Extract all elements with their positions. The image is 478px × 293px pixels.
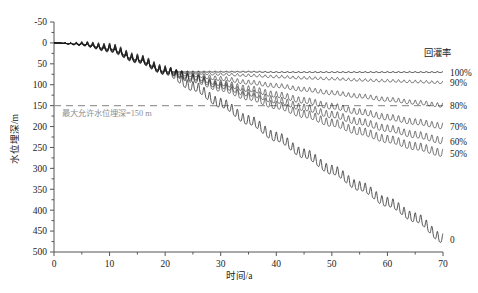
y-axis-tick-label: 250 bbox=[33, 143, 48, 153]
y-axis-tick-label: 150 bbox=[33, 101, 48, 111]
y-axis-tick-label: 300 bbox=[33, 164, 48, 174]
legend-label-0: 0 bbox=[450, 235, 455, 245]
chart-container: -500501001502002503003504004505000102030… bbox=[0, 0, 478, 293]
water-table-depth-line-chart: -500501001502002503003504004505000102030… bbox=[0, 0, 478, 293]
y-axis-tick-label: 450 bbox=[33, 226, 48, 236]
legend-label-100pct: 100% bbox=[450, 68, 472, 78]
x-axis-tick-label: 50 bbox=[327, 259, 337, 269]
series-curve-100pct bbox=[54, 43, 443, 73]
y-axis-tick-label: -50 bbox=[34, 17, 47, 27]
x-axis-tick-label: 60 bbox=[383, 259, 393, 269]
x-axis-tick-label: 30 bbox=[216, 259, 226, 269]
x-axis-tick-label: 20 bbox=[160, 259, 170, 269]
x-axis-tick-label: 70 bbox=[438, 259, 448, 269]
legend-label-80pct: 80% bbox=[450, 101, 467, 111]
y-axis-tick-label: 500 bbox=[33, 247, 48, 257]
axes-layer: -500501001502002503003504004505000102030… bbox=[33, 17, 448, 269]
legend-label-90pct: 90% bbox=[450, 78, 467, 88]
y-axis-tick-label: 0 bbox=[42, 38, 47, 48]
labels-layer: 100%90%80%70%60%50%0 bbox=[450, 68, 472, 245]
y-axis-tick-label: 100 bbox=[33, 80, 48, 90]
y-axis-tick-label: 400 bbox=[33, 206, 48, 216]
y-axis-tick-label: 50 bbox=[38, 59, 48, 69]
series-curves-layer bbox=[54, 41, 443, 242]
y-axis-tick-label: 200 bbox=[33, 122, 48, 132]
series-curve-50pct bbox=[54, 42, 443, 156]
legend-label-60pct: 60% bbox=[450, 137, 467, 147]
x-axis-tick-label: 10 bbox=[105, 259, 115, 269]
legend-label-50pct: 50% bbox=[450, 149, 467, 159]
legend-label-70pct: 70% bbox=[450, 122, 467, 132]
x-axis-tick-label: 0 bbox=[52, 259, 57, 269]
x-axis-tick-label: 40 bbox=[272, 259, 282, 269]
y-axis-tick-label: 350 bbox=[33, 185, 48, 195]
